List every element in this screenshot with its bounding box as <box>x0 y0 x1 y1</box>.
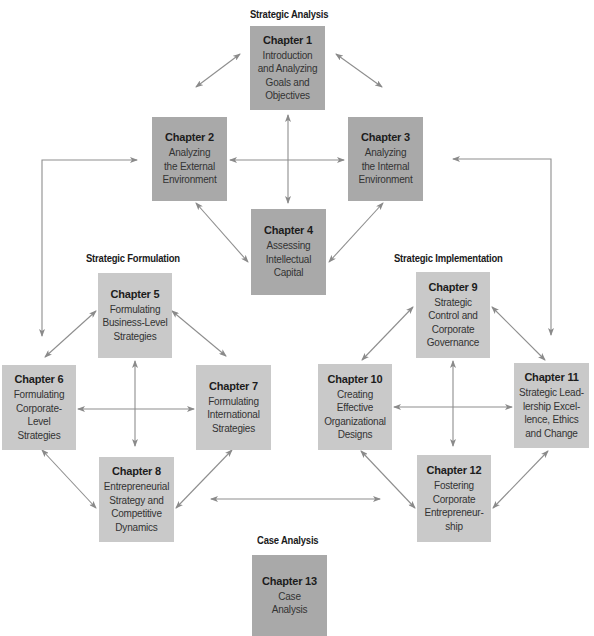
chapter-6-box: Chapter 6 Formulating Corporate- Level S… <box>2 365 76 450</box>
chapter-number: Chapter 8 <box>112 465 161 477</box>
chapter-title: Analyzing the External Environment <box>163 146 217 187</box>
chapter-13-box: Chapter 13 Case Analysis <box>252 555 327 636</box>
chapter-title: Strategic Control and Corporate Governan… <box>427 296 479 350</box>
section-title-strategic-implementation: Strategic Implementation <box>394 252 503 264</box>
chapter-title: Fostering Corporate Entrepreneur- ship <box>424 479 483 533</box>
chapter-number: Chapter 7 <box>209 380 258 392</box>
chapter-title: Analyzing the Internal Environment <box>359 146 413 187</box>
chapter-number: Chapter 1 <box>263 34 312 46</box>
chapter-number: Chapter 6 <box>15 373 64 385</box>
chapter-title: Strategic Lead- lership Excel- lence, Et… <box>519 386 584 440</box>
chapter-title: Entrepreneurial Strategy and Competitive… <box>104 480 169 534</box>
chapter-title: Introduction and Analyzing Goals and Obj… <box>258 49 318 103</box>
chapter-number: Chapter 12 <box>427 464 482 476</box>
chapter-number: Chapter 3 <box>361 131 410 143</box>
chapter-5-box: Chapter 5 Formulating Business-Level Str… <box>98 273 172 358</box>
chapter-3-box: Chapter 3 Analyzing the Internal Environ… <box>348 117 423 201</box>
chapter-number: Chapter 2 <box>165 131 214 143</box>
chapter-number: Chapter 9 <box>429 281 478 293</box>
chapter-title: Formulating Corporate- Level Strategies <box>14 388 65 442</box>
chapter-number: Chapter 5 <box>111 288 160 300</box>
chapter-11-box: Chapter 11 Strategic Lead- lership Excel… <box>514 363 589 448</box>
chapter-9-box: Chapter 9 Strategic Control and Corporat… <box>416 272 490 358</box>
chapter-1-box: Chapter 1 Introduction and Analyzing Goa… <box>250 26 325 110</box>
section-title-strategic-formulation: Strategic Formulation <box>86 252 180 264</box>
chapter-title: Assessing Intellectual Capital <box>266 239 311 280</box>
chapter-number: Chapter 13 <box>262 575 317 587</box>
section-title-case-analysis: Case Analysis <box>257 534 318 546</box>
chapter-4-box: Chapter 4 Assessing Intellectual Capital <box>251 209 326 295</box>
chapter-10-box: Chapter 10 Creating Effective Organizati… <box>318 364 392 450</box>
chapter-title: Formulating Business-Level Strategies <box>102 303 167 344</box>
chapter-title: Case Analysis <box>272 590 308 617</box>
chapter-title: Formulating International Strategies <box>207 395 259 436</box>
chapter-number: Chapter 11 <box>524 371 578 383</box>
chapter-number: Chapter 10 <box>328 373 383 385</box>
chapter-12-box: Chapter 12 Fostering Corporate Entrepren… <box>417 455 491 542</box>
chapter-number: Chapter 4 <box>264 224 313 236</box>
chapter-8-box: Chapter 8 Entrepreneurial Strategy and C… <box>99 457 174 542</box>
chapter-title: Creating Effective Organizational Design… <box>324 388 386 442</box>
section-title-strategic-analysis: Strategic Analysis <box>250 8 328 20</box>
chapter-2-box: Chapter 2 Analyzing the External Environ… <box>152 117 227 201</box>
chapter-7-box: Chapter 7 Formulating International Stra… <box>196 365 271 450</box>
